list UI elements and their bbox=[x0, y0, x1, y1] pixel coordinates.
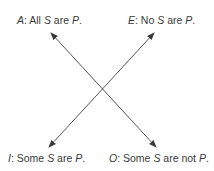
quantifier: Some bbox=[123, 152, 153, 164]
subject-term: S bbox=[44, 14, 51, 26]
corner-i-label: I: Some S are P. bbox=[8, 152, 85, 164]
corner-o-label: O: Some S are not P. bbox=[109, 152, 209, 164]
copula: are not bbox=[160, 152, 199, 164]
predicate-term: P bbox=[72, 14, 79, 26]
corner-letter: A bbox=[17, 14, 24, 26]
period: . bbox=[192, 14, 195, 26]
quantifier: Some bbox=[17, 152, 47, 164]
copula: are bbox=[164, 14, 185, 26]
copula: are bbox=[54, 152, 75, 164]
corner-e-label: E: No S are P. bbox=[128, 14, 195, 26]
corner-letter: O bbox=[109, 152, 117, 164]
period: . bbox=[82, 152, 85, 164]
arrow-a-to-o bbox=[51, 33, 156, 147]
copula: are bbox=[51, 14, 72, 26]
predicate-term: P bbox=[199, 152, 206, 164]
quantifier: All bbox=[29, 14, 44, 26]
corner-letter: E bbox=[128, 14, 135, 26]
corner-a-label: A: All S are P. bbox=[17, 14, 82, 26]
quantifier: No bbox=[141, 14, 157, 26]
arrow-e-to-i bbox=[49, 33, 154, 147]
period: . bbox=[79, 14, 82, 26]
period: . bbox=[206, 152, 209, 164]
